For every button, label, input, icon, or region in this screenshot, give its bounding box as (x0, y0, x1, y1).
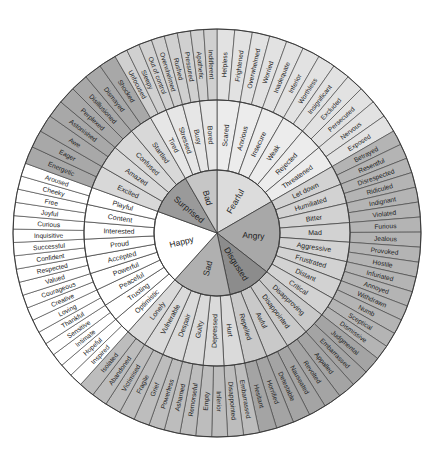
tertiary-emotion-label: Furious (374, 222, 397, 230)
core-emotion-label: Angry (242, 230, 266, 242)
secondary-emotion-label: Bored (206, 126, 214, 145)
inner-ring-core-emotions: FearfulAngryDisgustedSadHappySurprisedBa… (154, 170, 280, 296)
tertiary-emotion-label: Jealous (374, 235, 398, 243)
tertiary-emotion-label: Indifferent (208, 50, 216, 80)
secondary-emotion-label: Mad (308, 229, 322, 236)
feelings-wheel-svg: HelplessFrightenedOverwhelmedWorriedInad… (0, 0, 436, 464)
feelings-wheel: Feelings Wheel HelplessFrightenedOverwhe… (0, 0, 436, 464)
tertiary-emotion-label: Inferior (216, 391, 223, 412)
secondary-emotion-label: Interested (103, 227, 134, 235)
tertiary-emotion-label: Curious (37, 220, 61, 228)
